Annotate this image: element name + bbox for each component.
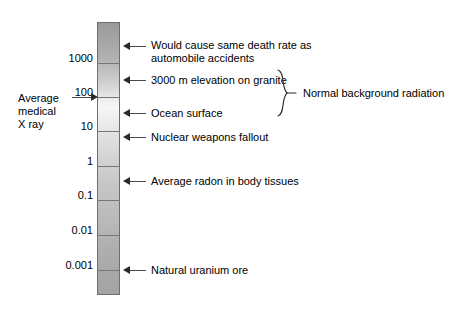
callout-arrow-line <box>130 137 146 138</box>
bar-tick-100 <box>97 97 120 98</box>
callout-arrow-line <box>130 46 146 47</box>
callout-arrow-head-icon <box>123 133 130 141</box>
axis-tick-label: 10 <box>81 120 93 132</box>
axis-tick-label: 0.01 <box>72 224 93 236</box>
left-callout-arrow-head-icon <box>91 93 98 101</box>
bar-tick-0.01 <box>97 235 120 236</box>
callout-label-death-rate: Would cause same death rate as automobil… <box>151 39 336 65</box>
axis-tick-1000: 1000 <box>0 52 93 64</box>
callout-label-average-radon: Average radon in body tissues <box>151 175 346 188</box>
axis-tick-0.01: 0.01 <box>0 224 93 236</box>
callout-arrow-line <box>130 181 146 182</box>
bar-tick-1 <box>97 166 120 167</box>
group-brace-icon <box>274 69 300 119</box>
axis-tick-label: 0.001 <box>65 259 93 271</box>
axis-tick-0.1: 0.1 <box>0 189 93 201</box>
callout-arrow-line <box>130 80 146 81</box>
axis-tick-label: 1000 <box>69 52 93 64</box>
group-label-normal-background-radiation: Normal background radiation <box>303 87 444 100</box>
bar-tick-0.1 <box>97 200 120 201</box>
axis-tick-0.001: 0.001 <box>0 259 93 271</box>
callout-arrow-head-icon <box>123 109 130 117</box>
bar-tick-0.001 <box>97 270 120 271</box>
callout-arrow-head-icon <box>123 42 130 50</box>
axis-tick-1: 1 <box>0 155 93 167</box>
callout-label-natural-uranium-ore: Natural uranium ore <box>151 264 336 277</box>
callout-label-ocean-surface: Ocean surface <box>151 107 336 120</box>
bar-tick-10 <box>97 131 120 132</box>
callout-label-weapons-fallout: Nuclear weapons fallout <box>151 131 336 144</box>
left-callout-label: Average medical X ray <box>18 92 70 131</box>
axis-tick-label: 1 <box>87 155 93 167</box>
radiation-scale-figure: 1000 100 10 1 0.1 0.01 0.001 Average med… <box>0 0 450 316</box>
bar-tick-1000 <box>97 63 120 64</box>
callout-arrow-head-icon <box>123 266 130 274</box>
callout-arrow-head-icon <box>123 177 130 185</box>
callout-label-granite-elevation: 3000 m elevation on granite <box>151 74 336 87</box>
callout-arrow-head-icon <box>123 76 130 84</box>
callout-arrow-line <box>130 270 146 271</box>
axis-tick-label: 0.1 <box>78 189 93 201</box>
callout-arrow-line <box>130 113 146 114</box>
left-callout-arrow-line <box>72 97 93 98</box>
